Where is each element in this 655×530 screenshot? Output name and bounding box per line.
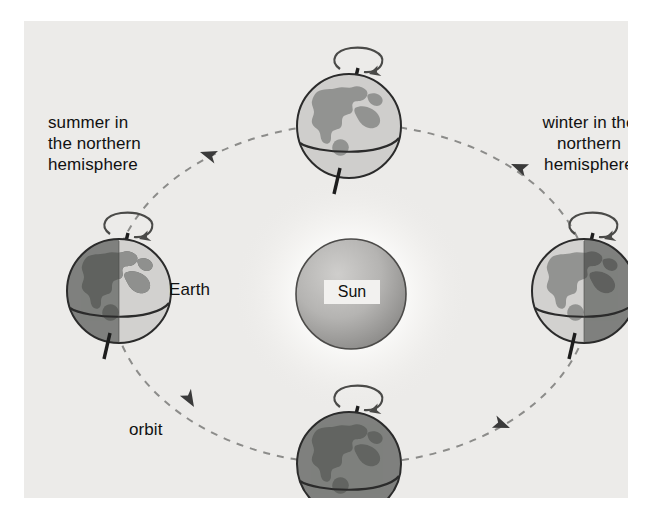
label-orbit: orbit: [129, 419, 163, 440]
orbit-arrow-bottom-left: [180, 389, 200, 410]
orbit-arrow-bottom-right: [492, 416, 512, 434]
label-earth: Earth: [169, 279, 210, 300]
earth-right: [532, 213, 628, 359]
label-sun: Sun: [324, 280, 380, 304]
label-winter-northern-hemisphere: winter in the northern hemisphere: [514, 112, 628, 175]
label-summer-northern-hemisphere: summer in the northern hemisphere: [48, 112, 228, 175]
earth-top: [297, 48, 401, 194]
earth-left: [67, 213, 171, 359]
figure-canvas: summer in the northern hemisphere winter…: [0, 0, 655, 530]
diagram-panel: summer in the northern hemisphere winter…: [24, 21, 628, 498]
orbit-diagram-svg: [24, 21, 628, 498]
